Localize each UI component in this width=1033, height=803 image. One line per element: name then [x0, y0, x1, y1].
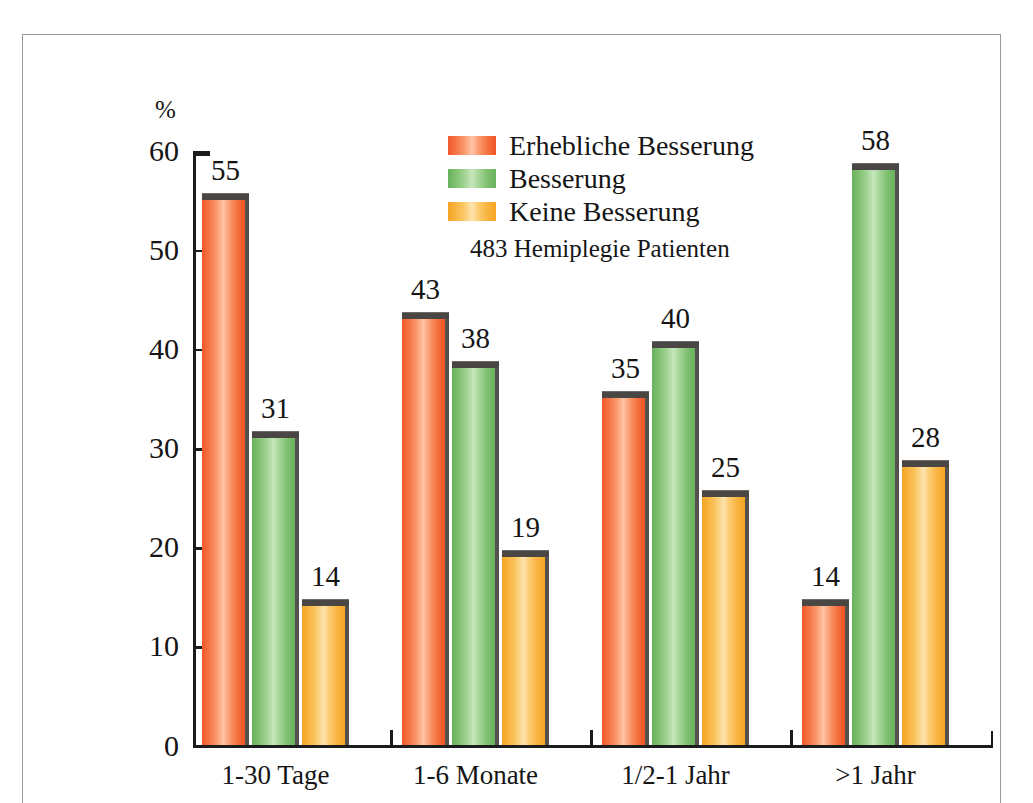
bar-fill	[402, 319, 449, 745]
bar[interactable]: 40	[652, 348, 699, 745]
y-axis-line	[193, 153, 196, 748]
bar-value-label: 31	[261, 394, 290, 423]
legend-swatch	[448, 202, 496, 221]
bar[interactable]: 19	[502, 557, 549, 745]
bar-value-label: 58	[861, 126, 890, 155]
bar-slot: 14	[802, 150, 849, 745]
bar-fill	[652, 348, 699, 745]
legend-label: Erhebliche Besserung	[509, 132, 754, 160]
figure-canvas: % 0102030405060 5531141-30 Tage4338191-6…	[0, 0, 1033, 803]
bar-slot: 43	[402, 150, 449, 745]
bar-slot: 14	[302, 150, 349, 745]
legend-subtitle: 483 Hemiplegie Patienten	[470, 236, 754, 261]
bar-slot: 31	[252, 150, 299, 745]
bar-top-cap	[302, 599, 349, 606]
y-axis-tick-label: 50	[149, 235, 179, 265]
bar-fill	[502, 557, 549, 745]
legend-swatch	[448, 136, 496, 155]
bar-top-cap	[252, 431, 299, 438]
y-axis-tick-label: 10	[149, 631, 179, 661]
x-axis-group-tick	[790, 730, 793, 746]
bar-value-label: 14	[311, 562, 340, 591]
legend-label: Besserung	[509, 165, 626, 193]
bar-slot: 58	[852, 150, 899, 745]
bar-fill	[602, 398, 649, 745]
figure-frame: % 0102030405060 5531141-30 Tage4338191-6…	[22, 34, 1001, 803]
bar-value-label: 28	[911, 423, 940, 452]
bar-fill	[852, 170, 899, 745]
bar-fill	[302, 606, 349, 745]
bar-group: 145828>1 Jahr	[802, 150, 949, 745]
x-axis-line	[193, 745, 993, 748]
bar-value-label: 25	[711, 453, 740, 482]
x-axis-category-label: 1-6 Monate	[413, 762, 538, 789]
legend-entries: Erhebliche BesserungBesserungKeine Besse…	[448, 129, 754, 228]
bar-fill	[452, 368, 499, 745]
y-axis-tick-label: 60	[149, 136, 179, 166]
bar-group: 5531141-30 Tage	[202, 150, 349, 745]
bar-value-label: 14	[811, 562, 840, 591]
bar[interactable]: 43	[402, 319, 449, 745]
legend-entry[interactable]: Erhebliche Besserung	[448, 129, 754, 162]
x-axis-group-tick	[390, 730, 393, 746]
bar-value-label: 35	[611, 354, 640, 383]
x-axis-category-label: >1 Jahr	[835, 762, 915, 789]
bar[interactable]: 31	[252, 438, 299, 745]
bar[interactable]: 38	[452, 368, 499, 745]
y-axis-tick-label: 20	[149, 532, 179, 562]
y-axis-tick: 0	[193, 746, 210, 749]
bar-fill	[202, 200, 249, 745]
bar-value-label: 38	[461, 324, 490, 353]
bar[interactable]: 35	[602, 398, 649, 745]
bar-top-cap	[902, 460, 949, 467]
x-axis-category-label: 1/2-1 Jahr	[621, 762, 730, 789]
x-axis-category-label: 1-30 Tage	[222, 762, 330, 789]
bar-value-label: 40	[661, 304, 690, 333]
bar-top-cap	[602, 391, 649, 398]
bar[interactable]: 14	[302, 606, 349, 745]
bar[interactable]: 58	[852, 170, 899, 745]
legend-label: Keine Besserung	[509, 198, 700, 226]
bar-top-cap	[852, 163, 899, 170]
bar[interactable]: 14	[802, 606, 849, 745]
y-axis-tick-label: 30	[149, 433, 179, 463]
bar-top-cap	[452, 361, 499, 368]
legend-swatch	[448, 169, 496, 188]
bar-slot: 28	[902, 150, 949, 745]
bar-top-cap	[402, 312, 449, 319]
bar-value-label: 43	[411, 275, 440, 304]
bar[interactable]: 55	[202, 200, 249, 745]
bar-value-label: 55	[211, 156, 240, 185]
legend: Erhebliche BesserungBesserungKeine Besse…	[448, 129, 754, 261]
bar-slot: 55	[202, 150, 249, 745]
y-axis-tick-label: 0	[164, 731, 179, 761]
bar[interactable]: 28	[902, 467, 949, 745]
bar-fill	[902, 467, 949, 745]
bar-top-cap	[802, 599, 849, 606]
bar[interactable]: 25	[702, 497, 749, 745]
x-axis-group-tick	[590, 730, 593, 746]
y-axis-unit-label: %	[155, 97, 176, 122]
bar-top-cap	[652, 341, 699, 348]
y-axis-tick-label: 40	[149, 334, 179, 364]
bar-fill	[702, 497, 749, 745]
legend-entry[interactable]: Besserung	[448, 162, 754, 195]
legend-entry[interactable]: Keine Besserung	[448, 195, 754, 228]
bar-top-cap	[702, 490, 749, 497]
bar-fill	[252, 438, 299, 745]
bar-fill	[802, 606, 849, 745]
bar-value-label: 19	[511, 513, 540, 542]
x-axis-right-cap	[991, 731, 994, 748]
bar-top-cap	[502, 550, 549, 557]
bar-top-cap	[202, 193, 249, 200]
